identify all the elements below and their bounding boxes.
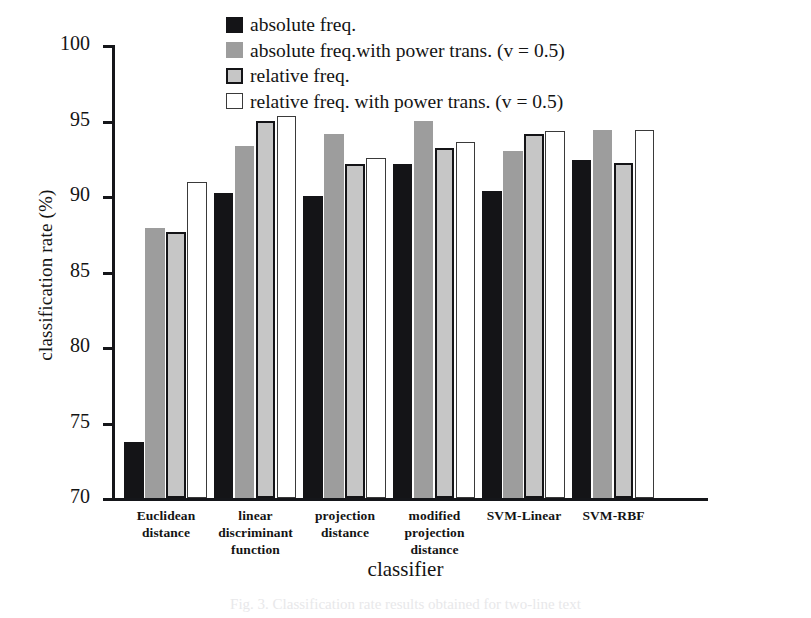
legend-item: absolute freq. [226, 12, 565, 38]
legend-swatch-icon [226, 42, 243, 58]
bar [593, 130, 613, 498]
bar [366, 158, 386, 498]
bar [482, 191, 502, 498]
bar [524, 134, 544, 498]
bar [214, 193, 234, 498]
y-axis-tick-label: 85 [30, 259, 90, 282]
bar [435, 148, 455, 498]
y-axis-tick: 85 [103, 272, 115, 275]
bar [124, 442, 144, 498]
bar [235, 146, 255, 498]
bar [614, 163, 634, 498]
figure-chart: classification rate (%) 100959085807570 … [0, 0, 811, 618]
bar [145, 228, 165, 498]
bar [166, 232, 186, 498]
legend-swatch-icon [226, 93, 243, 109]
bar [545, 131, 565, 498]
legend-item: relative freq. with power trans. (v = 0.… [226, 89, 565, 115]
legend-label: absolute freq. [250, 12, 356, 38]
bar [503, 151, 523, 498]
legend-item: absolute freq.with power trans. (v = 0.5… [226, 38, 565, 64]
x-axis-tick-label-line: projection [371, 524, 499, 541]
y-axis-tick-label: 80 [30, 334, 90, 357]
bar [572, 160, 592, 498]
bar [414, 121, 434, 499]
y-axis-tick: 70 [103, 498, 115, 501]
legend-item: relative freq. [226, 63, 565, 89]
y-axis-tick-label: 95 [30, 108, 90, 131]
y-axis-tick: 80 [103, 347, 115, 350]
legend-label: relative freq. [250, 63, 350, 89]
bar [635, 130, 655, 498]
y-axis-tick: 75 [103, 423, 115, 426]
legend: absolute freq.absolute freq.with power t… [226, 12, 565, 114]
x-axis-tick-label-line: function [192, 541, 320, 558]
y-axis-tick: 100 [103, 45, 115, 48]
bar [393, 164, 413, 498]
y-axis-tick: 90 [103, 196, 115, 199]
y-axis-tick-label: 70 [30, 485, 90, 508]
y-axis-tick-label: 75 [30, 410, 90, 433]
bar [187, 182, 207, 498]
x-axis-tick-label-line: distance [371, 541, 499, 558]
bar [303, 196, 323, 498]
legend-swatch-icon [226, 68, 243, 84]
x-axis-tick-label: SVM-RBF [550, 507, 678, 524]
bar-group [124, 45, 208, 498]
y-axis-tick: 95 [103, 121, 115, 124]
x-axis-tick-label-line: SVM-RBF [550, 507, 678, 524]
bar-group [572, 45, 656, 498]
figure-caption: Fig. 3. Classification rate results obta… [0, 596, 811, 613]
y-axis-tick-label: 100 [30, 32, 90, 55]
x-axis-title: classifier [0, 557, 811, 582]
legend-swatch-icon [226, 17, 243, 33]
legend-label: relative freq. with power trans. (v = 0.… [250, 89, 563, 115]
y-axis-tick-label: 90 [30, 183, 90, 206]
legend-label: absolute freq.with power trans. (v = 0.5… [250, 38, 565, 64]
bar [277, 116, 297, 498]
bar [256, 121, 276, 499]
bar [324, 134, 344, 498]
x-axis-line [112, 498, 708, 501]
bar [456, 142, 476, 498]
bar [345, 164, 365, 498]
